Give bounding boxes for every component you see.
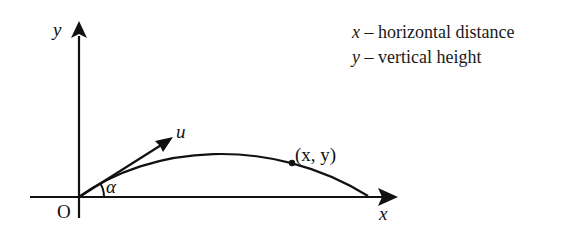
legend-desc: vertical height (378, 47, 481, 67)
x-axis-label: x (379, 204, 387, 223)
velocity-label: u (176, 122, 186, 141)
origin-label: O (57, 202, 71, 221)
legend-item-x: x – horizontal distance (352, 21, 514, 46)
legend-var: x (352, 22, 360, 42)
angle-label: α (106, 177, 116, 196)
legend-dash: – (360, 47, 378, 67)
y-axis (71, 21, 87, 218)
y-axis-label: y (53, 20, 61, 39)
legend: x – horizontal distance y – vertical hei… (352, 21, 514, 71)
legend-var: y (352, 47, 360, 67)
x-axis (30, 188, 398, 206)
legend-dash: – (360, 22, 378, 42)
angle-arc (100, 183, 104, 197)
legend-item-y: y – vertical height (352, 46, 514, 71)
y-axis-arrowhead-icon (71, 21, 87, 38)
velocity-arrowhead-icon (155, 137, 173, 152)
legend-desc: horizontal distance (378, 22, 514, 42)
point-label: (x, y) (295, 145, 336, 164)
